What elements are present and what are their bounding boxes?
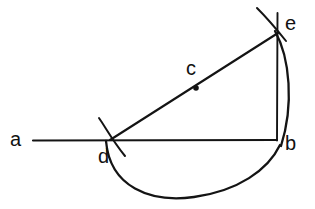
point-label-e: e <box>285 13 296 33</box>
point-label-a: a <box>10 129 21 149</box>
arc-d-to-b <box>106 141 280 198</box>
line-a-to-b <box>33 140 277 141</box>
figure-canvas <box>0 0 315 209</box>
point-label-b: b <box>285 133 296 153</box>
geometric-diagram: a d c e b <box>0 0 315 209</box>
point-label-c: c <box>186 58 196 78</box>
point-label-d: d <box>98 146 109 166</box>
line-e-to-b <box>277 13 278 141</box>
dot-marker-c <box>193 85 199 91</box>
